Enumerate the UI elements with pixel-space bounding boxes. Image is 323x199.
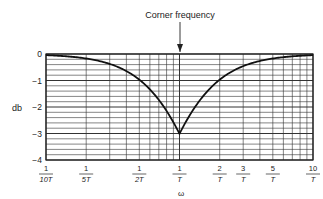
svg-text:2T: 2T — [134, 175, 145, 184]
y-tick-label: −3 — [32, 129, 42, 139]
svg-text:T: T — [311, 175, 317, 184]
svg-text:3: 3 — [241, 164, 245, 173]
x-tick-label: 2T — [213, 164, 227, 184]
down-arrow-icon — [177, 22, 183, 52]
svg-text:T: T — [271, 175, 277, 184]
x-axis-ticks: 110T15T12T1T2T3T5T10T — [39, 164, 320, 184]
svg-text:T: T — [217, 175, 223, 184]
x-axis-label: ω — [178, 189, 184, 198]
svg-text:1: 1 — [177, 164, 181, 173]
svg-text:5: 5 — [271, 164, 275, 173]
x-tick-label: 15T — [79, 164, 93, 184]
svg-text:5T: 5T — [82, 175, 92, 184]
y-tick-label: −2 — [32, 102, 42, 112]
x-tick-label: 1T — [173, 164, 187, 184]
svg-text:2: 2 — [218, 164, 222, 173]
y-axis-label: db — [12, 103, 22, 113]
bode-error-chart: 0−1−2−3−4 110T15T12T1T2T3T5T10T db ω Cor… — [0, 0, 323, 199]
svg-text:T: T — [177, 175, 183, 184]
x-tick-label: 12T — [132, 164, 146, 184]
svg-text:10T: 10T — [40, 175, 54, 184]
x-tick-label: 110T — [39, 164, 54, 184]
y-tick-label: −4 — [32, 155, 42, 165]
svg-text:1: 1 — [44, 164, 48, 173]
svg-text:10: 10 — [309, 164, 317, 173]
y-tick-label: 0 — [37, 49, 42, 59]
svg-text:T: T — [241, 175, 247, 184]
corner-frequency-annotation: Corner frequency — [145, 10, 215, 20]
x-tick-label: 10T — [306, 164, 320, 184]
x-tick-label: 3T — [236, 164, 250, 184]
y-axis-ticks: 0−1−2−3−4 — [32, 49, 42, 165]
plot-grid — [46, 54, 313, 160]
svg-text:1: 1 — [84, 164, 88, 173]
x-tick-label: 5T — [266, 164, 280, 184]
y-tick-label: −1 — [32, 76, 42, 86]
svg-text:1: 1 — [137, 164, 141, 173]
